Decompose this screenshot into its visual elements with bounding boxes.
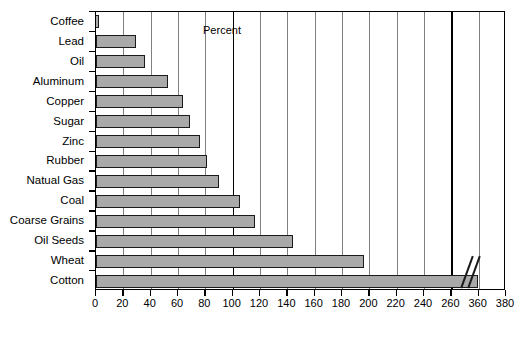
x-tick-label-160: 160 <box>304 297 322 309</box>
bar-coarse-grains <box>96 215 255 228</box>
bar-row <box>96 55 504 68</box>
x-tick-0 <box>95 290 96 296</box>
bar-wheat <box>96 255 364 268</box>
bars-layer <box>96 12 504 289</box>
bar-oil-seeds <box>96 235 293 248</box>
y-label-sugar: Sugar <box>53 115 84 127</box>
bar-coal <box>96 195 240 208</box>
bar-row <box>96 255 504 268</box>
bar-copper <box>96 95 183 108</box>
x-tick-label-140: 140 <box>277 297 295 309</box>
y-label-lead: Lead <box>58 35 84 47</box>
x-tick-180 <box>341 290 342 296</box>
x-tick-label-260: 260 <box>441 297 459 309</box>
y-label-aluminum: Aluminum <box>33 75 84 87</box>
x-tick-260 <box>450 290 451 296</box>
bar-aluminum <box>96 75 168 88</box>
x-tick-label-200: 200 <box>359 297 377 309</box>
bar-natual-gas <box>96 175 219 188</box>
y-axis-category-labels: CoffeeLeadOilAluminumCopperSugarZincRubb… <box>0 11 90 290</box>
y-label-oil: Oil <box>70 55 84 67</box>
bar-sugar <box>96 115 190 128</box>
x-axis-title-label: Percent <box>203 24 241 36</box>
x-tick-220 <box>396 290 397 296</box>
x-tick-160 <box>314 290 315 296</box>
x-tick-label-20: 20 <box>116 297 128 309</box>
x-tick-label-220: 220 <box>386 297 404 309</box>
bar-chart: CoffeeLeadOilAluminumCopperSugarZincRubb… <box>0 0 524 344</box>
x-tick-200 <box>368 290 369 296</box>
x-tick-240 <box>423 290 424 296</box>
x-tick-40 <box>150 290 151 296</box>
y-label-rubber: Rubber <box>46 154 84 166</box>
chart-title <box>70 0 400 4</box>
bar-row <box>96 155 504 168</box>
x-tick-80 <box>204 290 205 296</box>
x-tick-20 <box>122 290 123 296</box>
bar-row <box>96 135 504 148</box>
x-tick-60 <box>177 290 178 296</box>
y-label-cotton: Cotton <box>50 274 84 286</box>
x-tick-label-180: 180 <box>332 297 350 309</box>
x-tick-140 <box>286 290 287 296</box>
y-label-oil-seeds: Oil Seeds <box>34 234 84 246</box>
plot-area <box>95 11 505 290</box>
bar-row <box>96 75 504 88</box>
bar-row <box>96 175 504 188</box>
x-tick-label-380: 380 <box>496 297 514 309</box>
bar-rubber <box>96 155 207 168</box>
x-tick-label-360: 360 <box>468 297 486 309</box>
bar-row <box>96 235 504 248</box>
y-label-coarse-grains: Coarse Grains <box>10 214 84 226</box>
x-tick-label-120: 120 <box>250 297 268 309</box>
bar-cotton <box>96 275 478 288</box>
x-tick-label-100: 100 <box>222 297 240 309</box>
bar-row <box>96 195 504 208</box>
x-axis-title: Percent <box>0 24 524 36</box>
x-axis: 0204060801001201401601802002202402603603… <box>0 290 524 320</box>
bar-zinc <box>96 135 200 148</box>
x-tick-380 <box>505 290 506 296</box>
bar-row <box>96 35 504 48</box>
bar-row <box>96 215 504 228</box>
x-tick-120 <box>259 290 260 296</box>
bar-row <box>96 115 504 128</box>
x-tick-label-240: 240 <box>414 297 432 309</box>
x-tick-100 <box>232 290 233 296</box>
y-label-copper: Copper <box>46 95 84 107</box>
x-tick-label-60: 60 <box>171 297 183 309</box>
y-label-wheat: Wheat <box>51 254 84 266</box>
bar-lead <box>96 35 136 48</box>
bar-oil <box>96 55 145 68</box>
x-tick-label-80: 80 <box>198 297 210 309</box>
x-tick-360 <box>478 290 479 296</box>
bar-row <box>96 275 504 288</box>
y-label-coal: Coal <box>60 194 84 206</box>
y-label-natual-gas: Natual Gas <box>26 174 84 186</box>
y-label-zinc: Zinc <box>62 135 84 147</box>
x-tick-label-40: 40 <box>144 297 156 309</box>
bar-row <box>96 95 504 108</box>
x-tick-label-0: 0 <box>92 297 98 309</box>
